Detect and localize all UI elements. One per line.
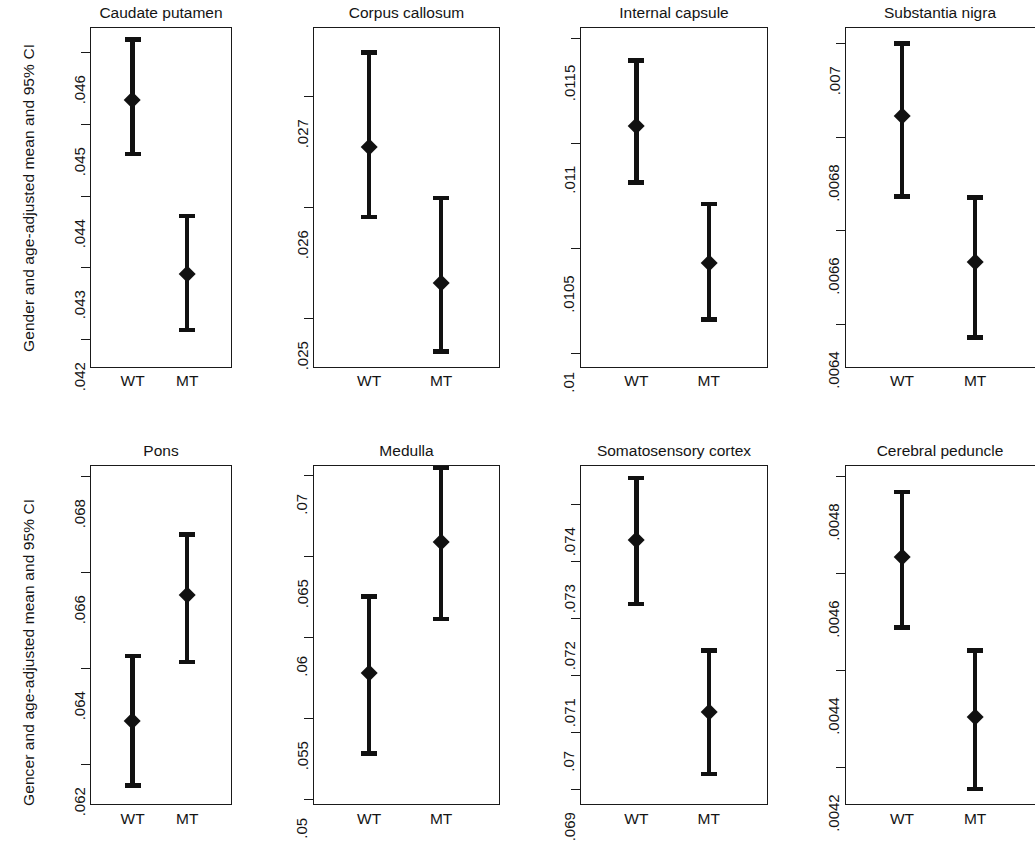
confidence-interval-lower-cap	[894, 194, 910, 199]
y-axis-tick	[81, 668, 90, 669]
x-axis-label-mt: MT	[964, 810, 986, 828]
confidence-interval-lower-cap	[433, 349, 449, 354]
panel-title: Cerebral peduncle	[845, 442, 1035, 460]
y-axis-tick-label: .01	[561, 372, 578, 393]
y-axis-tick-label: .011	[561, 165, 578, 193]
confidence-interval-lower-cap	[361, 215, 377, 220]
y-axis-tick-label: .025	[294, 341, 311, 370]
y-axis-tick-label: .066	[71, 595, 88, 624]
y-axis-tick	[571, 561, 580, 562]
y-axis-tick-label: .045	[71, 147, 88, 176]
x-axis-label-wt: WT	[890, 810, 914, 828]
panel-title: Substantia nigra	[845, 4, 1035, 22]
y-axis-tick-label: .071	[561, 698, 578, 727]
panel-title: Somatosensory cortex	[580, 442, 768, 460]
y-axis-tick-label: .064	[71, 691, 88, 720]
x-axis-label-mt: MT	[964, 372, 986, 390]
confidence-interval-lower-cap	[628, 602, 644, 607]
plot-area	[580, 465, 768, 805]
y-axis-tick	[836, 670, 845, 671]
x-axis-label-wt: WT	[624, 372, 648, 390]
plot-area	[313, 465, 500, 805]
confidence-interval-upper-cap	[433, 196, 449, 201]
x-axis-label-mt: MT	[698, 810, 720, 828]
panel-medulla: Medulla.07.065.06.055.05	[313, 465, 500, 805]
confidence-interval-upper-cap	[628, 58, 644, 63]
y-axis-tick-label: .0066	[826, 257, 843, 295]
y-axis-tick	[81, 52, 90, 53]
panel-title: Caudate putamen	[90, 4, 232, 22]
y-axis-tick	[81, 267, 90, 268]
confidence-interval-lower-cap	[967, 787, 983, 792]
confidence-interval-lower-cap	[361, 751, 377, 756]
y-axis-tick-label: .027	[294, 119, 311, 148]
panel-corpus-callosum: Corpus callosum.027.026.025	[313, 27, 500, 368]
y-axis-tick-label: .055	[294, 741, 311, 770]
y-axis-tick	[571, 732, 580, 733]
panel-caudate-putamen: Caudate putamen.046.045.044.043.042	[90, 27, 232, 368]
x-axis-label-mt: MT	[176, 810, 198, 828]
confidence-interval-lower-cap	[967, 335, 983, 340]
x-axis-label-wt: WT	[121, 372, 145, 390]
panel-title: Medulla	[313, 442, 500, 460]
y-axis-tick-label: .06	[294, 656, 311, 677]
panel-title: Internal capsule	[580, 4, 768, 22]
panel-title: Pons	[90, 442, 232, 460]
y-axis-tick-label: .043	[71, 291, 88, 320]
y-axis-tick	[81, 764, 90, 765]
confidence-interval-lower-cap	[628, 180, 644, 185]
y-axis-tick	[571, 143, 580, 144]
confidence-interval-lower-cap	[179, 660, 195, 665]
x-axis-label-wt: WT	[357, 810, 381, 828]
y-axis-tick-label: .0046	[826, 600, 843, 638]
y-axis-tick	[81, 476, 90, 477]
panel-cerebral-peduncle: Cerebral peduncle.0048.0046.0044.0042	[845, 465, 1035, 805]
y-axis-tick-label: .062	[71, 787, 88, 816]
y-axis-title-top: Gender and age-adjusted mean and 95% CI	[20, 44, 38, 352]
y-axis-tick	[571, 353, 580, 354]
confidence-interval-lower-cap	[125, 152, 141, 157]
panel-substantia-nigra: Substantia nigra.007.0068.0066.0064	[845, 27, 1035, 368]
y-axis-tick	[304, 637, 313, 638]
y-axis-tick	[571, 675, 580, 676]
y-axis-tick-label: .074	[561, 527, 578, 556]
panel-internal-capsule: Internal capsule.0115.011.0105.01	[580, 27, 768, 368]
y-axis-tick	[836, 324, 845, 325]
y-axis-tick-label: .065	[294, 579, 311, 608]
plot-area	[580, 27, 768, 368]
confidence-interval-upper-cap	[894, 41, 910, 46]
y-axis-tick	[304, 318, 313, 319]
y-axis-tick-label: .044	[71, 219, 88, 248]
y-axis-tick	[836, 767, 845, 768]
y-axis-tick-label: .007	[826, 66, 843, 95]
y-axis-tick-label: .0105	[561, 275, 578, 313]
y-axis-tick-label: .05	[294, 818, 311, 839]
plot-area	[845, 465, 1035, 805]
plot-area	[845, 27, 1035, 368]
confidence-interval-lower-cap	[179, 328, 195, 333]
y-axis-tick	[304, 207, 313, 208]
x-axis-label-mt: MT	[430, 810, 452, 828]
y-axis-tick	[304, 556, 313, 557]
y-axis-tick	[571, 504, 580, 505]
y-axis-tick-label: .0068	[826, 164, 843, 202]
x-axis-label-mt: MT	[176, 372, 198, 390]
x-axis-label-wt: WT	[121, 810, 145, 828]
panel-title: Corpus callosum	[313, 4, 500, 22]
y-axis-tick	[81, 124, 90, 125]
x-axis-label-wt: WT	[890, 372, 914, 390]
plot-area	[90, 465, 232, 805]
confidence-interval-upper-cap	[179, 532, 195, 537]
y-axis-tick-label: .072	[561, 641, 578, 670]
y-axis-tick	[81, 196, 90, 197]
y-axis-tick-label: .07	[561, 751, 578, 772]
y-axis-title-bottom: Gencer and age-adjusted mean and 95% CI	[20, 499, 38, 806]
panel-somatosensory-cortex: Somatosensory cortex.074.073.072.071.07.…	[580, 465, 768, 805]
panel-pons: Pons.068.066.064.062	[90, 465, 232, 805]
y-axis-tick-label: .0115	[561, 64, 578, 100]
y-axis-tick-label: .026	[294, 230, 311, 259]
confidence-interval-lower-cap	[894, 625, 910, 630]
confidence-interval-upper-cap	[967, 195, 983, 200]
confidence-interval-upper-cap	[125, 654, 141, 659]
y-axis-tick-label: .0048	[826, 503, 843, 541]
